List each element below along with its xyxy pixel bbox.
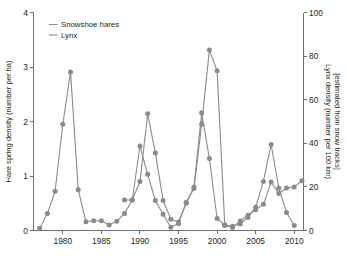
data-point [245,213,250,218]
data-point [168,217,173,222]
data-point [215,216,220,221]
y-ticklabel-right: 100 [309,8,323,18]
data-point [99,218,104,223]
x-ticklabel: 2005 [246,236,265,246]
x-ticklabel: 1985 [92,236,111,246]
data-point [145,111,150,116]
data-point [60,122,65,127]
x-ticklabel: 1980 [53,236,72,246]
data-point [222,223,227,228]
data-point [168,225,173,230]
x-ticklabel: 1995 [169,236,188,246]
y-ticklabel-right: 20 [309,182,319,192]
data-point [238,218,243,223]
data-point [153,198,158,203]
data-point [53,189,58,194]
data-point [292,223,297,228]
data-point [122,211,127,216]
y-axis-title-right-line1: Lynx density (number per 100 km) [324,64,333,179]
y-axis-title-left: Hare spring density (number per ha) [4,60,13,182]
y-ticklabel-right: 80 [309,51,319,61]
x-ticklabel: 2010 [285,236,304,246]
data-point [199,110,204,115]
y-ticklabel-left: 1 [23,171,28,181]
data-point [269,142,274,147]
population-cycle-chart: 0123402040608010019801985199019952000200… [0,0,347,260]
x-ticklabel: 1990 [131,236,150,246]
data-point [261,202,266,207]
data-point [91,218,96,223]
y-ticklabel-right: 40 [309,138,319,148]
data-point [284,185,289,190]
data-point [161,212,166,217]
y-ticklabel-left: 0 [23,226,28,236]
data-point [184,201,189,206]
data-point [83,219,88,224]
data-point [292,184,297,189]
data-point [284,210,289,215]
y-axis-title-right-line2: [estimated from snow tracks] [333,73,342,170]
chart-background [0,0,347,260]
data-point [299,178,304,183]
data-point [137,179,142,184]
data-point [253,207,258,212]
data-point [207,48,212,53]
data-point [114,219,119,224]
data-point [261,179,266,184]
data-point [137,144,142,149]
data-point [215,68,220,73]
data-point [153,151,158,156]
data-point [191,184,196,189]
data-point [161,198,166,203]
legend-label: Lynx [61,31,77,40]
legend-label: Snowshoe hares [61,20,119,29]
data-point [207,156,212,161]
y-ticklabel-left: 3 [23,62,28,72]
data-point [130,197,135,202]
data-point [230,225,235,230]
data-point [107,223,112,228]
data-point [37,226,42,231]
data-point [122,197,127,202]
data-point [76,187,81,192]
chart-canvas: 0123402040608010019801985199019952000200… [0,0,347,260]
data-point [276,185,281,190]
y-ticklabel-left: 2 [23,117,28,127]
y-ticklabel-right: 60 [309,95,319,105]
y-ticklabel-left: 4 [23,8,28,18]
data-point [269,180,274,185]
data-point [176,220,181,225]
data-point [276,191,281,196]
y-ticklabel-right: 0 [309,226,314,236]
x-ticklabel: 2000 [208,236,227,246]
data-point [68,69,73,74]
data-point [45,211,50,216]
data-point [145,172,150,177]
